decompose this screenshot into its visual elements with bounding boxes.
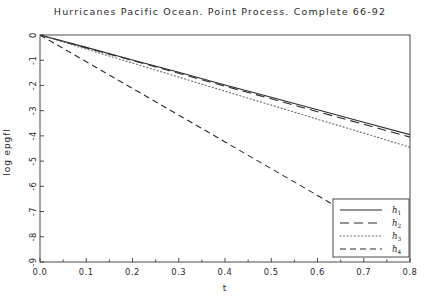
x-tick-label: 0.0: [33, 267, 48, 277]
data-series-group: [40, 35, 410, 212]
y-tick-label: -2: [28, 81, 38, 90]
x-tick-label: 0.1: [79, 267, 94, 277]
y-axis-ticks: 0-1-2-3-4-5-6-7-8-9: [28, 32, 44, 267]
y-tick-label: -9: [28, 257, 38, 266]
x-tick-label: 0.4: [218, 267, 233, 277]
x-tick-label: 0.8: [403, 267, 418, 277]
y-tick-label: -7: [28, 207, 38, 216]
y-tick-label: -4: [28, 131, 38, 140]
x-tick-label: 0.6: [310, 267, 325, 277]
series-line-h3: [40, 35, 410, 147]
x-axis-ticks: 0.00.10.20.30.40.50.60.70.8: [33, 258, 418, 277]
legend[interactable]: h1h2h3h4: [333, 199, 409, 257]
series-line-h4: [40, 35, 345, 212]
y-tick-label: 0: [28, 32, 38, 38]
y-tick-label: -1: [28, 56, 38, 65]
chart-figure: Hurricanes Pacific Ocean. Point Process.…: [0, 0, 440, 301]
plot-area: 0.00.10.20.30.40.50.60.70.8 0-1-2-3-4-5-…: [0, 0, 440, 301]
series-line-h2: [40, 35, 410, 137]
x-tick-label: 0.2: [125, 267, 140, 277]
y-tick-label: -5: [28, 156, 38, 165]
x-tick-label: 0.3: [171, 267, 186, 277]
y-tick-label: -6: [28, 182, 38, 191]
y-tick-label: -3: [28, 106, 38, 115]
y-tick-label: -8: [28, 232, 38, 241]
x-tick-label: 0.7: [356, 267, 371, 277]
x-tick-label: 0.5: [264, 267, 279, 277]
